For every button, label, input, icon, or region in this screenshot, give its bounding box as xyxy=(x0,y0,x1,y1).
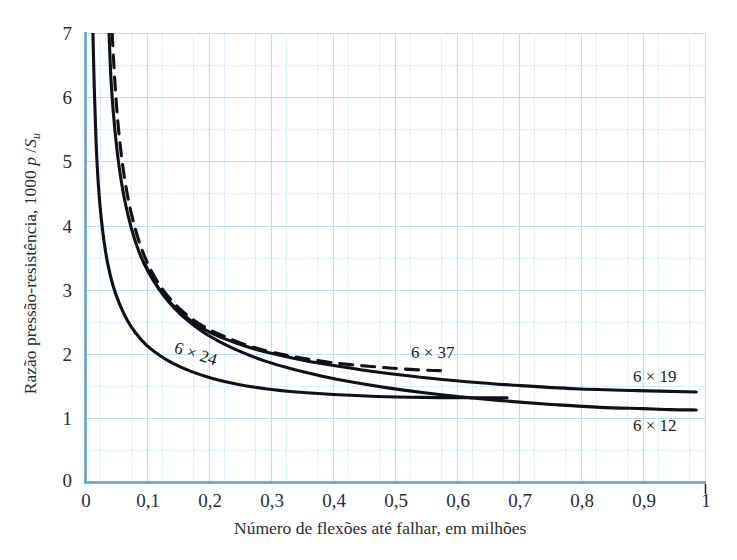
x-tick-label: 0,3 xyxy=(260,491,284,510)
x-tick-label: 0,2 xyxy=(198,491,222,510)
curve-label-6x12: 6 × 12 xyxy=(633,416,677,436)
y-axis-title-slash: / xyxy=(20,148,40,157)
x-tick-label: 1 xyxy=(701,491,711,510)
y-tick-label: 0 xyxy=(48,471,72,490)
y-tick-label: 5 xyxy=(48,152,72,171)
y-axis-title-prefix: Razão pressão-resistência, 1000 xyxy=(20,166,40,394)
curve-6x19 xyxy=(109,33,696,392)
x-tick-label: 0 xyxy=(81,491,91,510)
curve-label-6x37: 6 × 37 xyxy=(411,343,455,363)
figure-container: 7 6 5 4 3 2 1 0 0 0,1 0,2 0,3 0,4 0,5 0,… xyxy=(0,0,737,560)
x-tick-label: 0,4 xyxy=(322,491,346,510)
y-tick-label: 2 xyxy=(48,345,72,364)
chart-canvas xyxy=(0,0,737,560)
y-axis-title-S: S xyxy=(20,139,40,148)
x-tick-label: 0,7 xyxy=(508,491,532,510)
x-tick-label: 0,1 xyxy=(136,491,160,510)
y-axis-title-subscript: u xyxy=(29,133,43,139)
x-tick-label: 0,6 xyxy=(446,491,470,510)
y-axis-title: Razão pressão-resistência, 1000 p /Su xyxy=(20,114,43,414)
y-tick-label: 4 xyxy=(48,217,72,236)
x-tick-label: 0,5 xyxy=(384,491,408,510)
y-tick-label: 1 xyxy=(48,409,72,428)
y-tick-label: 7 xyxy=(48,24,72,43)
curve-label-6x19: 6 × 19 xyxy=(633,367,677,387)
y-tick-label: 3 xyxy=(48,281,72,300)
x-tick-label: 0,8 xyxy=(570,491,594,510)
y-tick-label: 6 xyxy=(48,88,72,107)
x-tick-label: 0,9 xyxy=(632,491,656,510)
x-axis-title: Número de flexões até falhar, em milhões xyxy=(234,518,526,539)
curve-6x12 xyxy=(144,263,696,410)
y-axis-title-p: p xyxy=(20,157,40,166)
